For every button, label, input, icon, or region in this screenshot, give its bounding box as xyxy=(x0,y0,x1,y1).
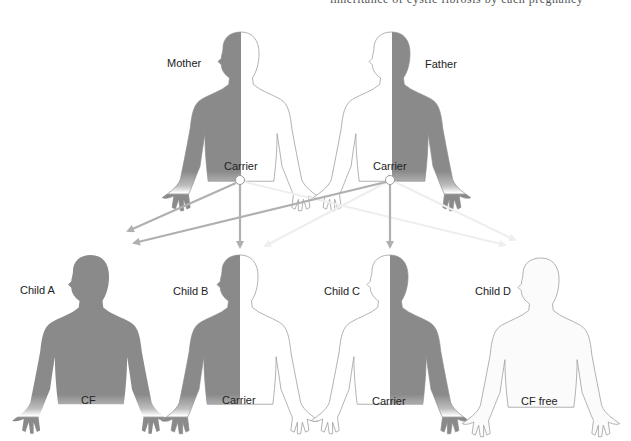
inheritance-arrows xyxy=(128,182,390,247)
child-b-figure xyxy=(161,255,318,434)
inheritance-diagram xyxy=(0,0,631,441)
child-d-status: CF free xyxy=(521,395,558,407)
child-b-status: Carrier xyxy=(222,394,256,406)
father-label: Father xyxy=(425,58,457,70)
child-c-label: Child C xyxy=(324,285,360,297)
father-node xyxy=(386,176,395,185)
child-a-label: Child A xyxy=(20,284,55,296)
mother-node xyxy=(236,176,245,185)
father-status: Carrier xyxy=(373,160,407,172)
child-c-status: Carrier xyxy=(372,395,406,407)
child-a-figure xyxy=(12,255,169,434)
child-d-label: Child D xyxy=(475,285,511,297)
child-a-status: CF xyxy=(81,394,96,406)
mother-status: Carrier xyxy=(224,160,258,172)
child-b-label: Child B xyxy=(173,285,208,297)
faint-arrows xyxy=(245,182,515,246)
mother-label: Mother xyxy=(167,57,201,69)
